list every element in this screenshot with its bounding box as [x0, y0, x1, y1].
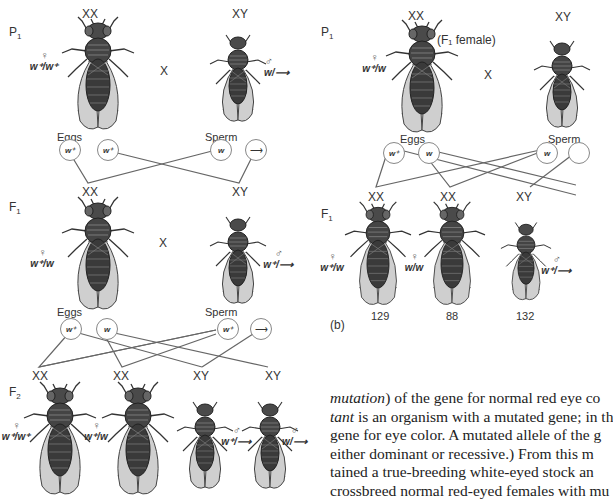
text-line: either dominant or recessive.) From this…: [330, 445, 613, 464]
text-rest: gene for eye color. A mutated allele of …: [330, 426, 601, 443]
genotype-text: w⁺/w: [320, 262, 343, 273]
genotype-b-f1-1: ♀w⁺/w: [312, 251, 352, 273]
generation-letter: P: [321, 25, 329, 39]
genotype-f2-2: ♀w⁺/w: [78, 420, 114, 442]
text-rest: ) of the gene for normal red eye co: [385, 389, 600, 406]
genotype-text: w⁺/w⁺: [30, 61, 58, 72]
male-symbol-icon: ♂: [282, 425, 306, 436]
genotype-text: w/⟶: [282, 436, 307, 447]
offspring-chromosomes: XY: [193, 369, 209, 383]
offspring-chromosomes: XY: [516, 190, 532, 204]
genotype-text: w/w: [405, 262, 423, 273]
sperm-allele-partial: [568, 142, 590, 164]
fly-male-icon: [208, 30, 268, 126]
fly-male-icon: [532, 36, 592, 132]
egg-allele: w: [96, 318, 118, 340]
offspring-chromosomes: XY: [265, 369, 281, 383]
egg-allele: w⁺: [60, 318, 82, 340]
eggs-label: Eggs: [400, 133, 425, 145]
genotype-text: w/⟶: [264, 67, 289, 78]
text-line: gene for eye color. A mutated allele of …: [330, 426, 613, 445]
text-line: crossbreed normal red-eyed females with …: [330, 482, 613, 500]
text-italic: tant: [330, 408, 354, 425]
generation-label-f1: F1: [9, 200, 21, 216]
sperm-allele: ⟶: [250, 318, 272, 340]
generation-sub: 1: [328, 214, 332, 223]
generation-sub: 1: [16, 207, 20, 216]
sperm-label: Sperm: [205, 306, 237, 318]
genotype-text: w⁺/w: [30, 258, 53, 269]
offspring-count: 129: [371, 310, 389, 322]
generation-sub: 1: [17, 32, 21, 41]
female-symbol-icon: ♀: [78, 420, 114, 431]
genotype-p1-male: ♂w/⟶: [264, 56, 294, 78]
chromosome-label-male: XY: [232, 7, 248, 21]
generation-letter: P: [9, 25, 17, 39]
offspring-count: 132: [516, 310, 534, 322]
text-italic: mutation: [330, 389, 385, 406]
genotype-text: w⁺/w⁺: [2, 431, 30, 442]
generation-label-b-p1: P1: [321, 25, 333, 41]
text-rest: either dominant or recessive.) From this…: [330, 445, 594, 462]
fly-female-icon: [58, 195, 138, 315]
genotype-text: w⁺/⟶: [541, 265, 571, 276]
fly-female-icon: [382, 18, 462, 138]
cross-symbol: X: [484, 68, 492, 82]
text-line: mutation) of the gene for normal red eye…: [330, 389, 613, 408]
sperm-allele: w: [536, 142, 558, 164]
generation-sub: 1: [329, 32, 333, 41]
female-symbol-icon: ♀: [0, 420, 34, 431]
genotype-f1-female: ♀w⁺/w: [22, 247, 62, 269]
offspring-chromosomes: XY: [232, 185, 248, 199]
fly-female-icon: [58, 15, 138, 135]
egg-allele: w⁺: [59, 139, 81, 161]
cross-symbol: X: [159, 236, 167, 250]
body-paragraph: mutation) of the gene for normal red eye…: [330, 389, 613, 500]
sperm-allele: ⟶: [245, 139, 267, 161]
chromosome-label-male: XY: [555, 10, 571, 24]
sperm-allele: w: [210, 139, 232, 161]
genotype-f2-1: ♀w⁺/w⁺: [0, 420, 34, 442]
male-symbol-icon: ♂: [538, 254, 574, 265]
offspring-count: 88: [446, 310, 458, 322]
sperm-allele: w⁺: [217, 318, 239, 340]
genotype-f1-male: ♂w⁺/⟶: [258, 248, 298, 270]
egg-allele: w⁺: [97, 139, 119, 161]
text-rest: tained a true-breeding white-eyed stock …: [330, 463, 594, 480]
text-line: tained a true-breeding white-eyed stock …: [330, 463, 613, 482]
eggs-label: Eggs: [57, 306, 82, 318]
text-rest: crossbreed normal red-eyed females with …: [330, 482, 609, 499]
text-rest: is an organism with a mutated gene; in t…: [354, 408, 613, 425]
cross-symbol: X: [160, 64, 168, 78]
genotype-text: w⁺/w: [84, 431, 107, 442]
female-symbol-icon: ♀: [312, 251, 352, 262]
genotype-text: w⁺/⟶: [263, 259, 293, 270]
panel-label-b: (b): [330, 318, 345, 332]
male-symbol-icon: ♂: [258, 248, 298, 259]
genotype-f2-4: ♂w/⟶: [282, 425, 306, 447]
female-symbol-icon: ♀: [22, 247, 62, 258]
female-symbol-icon: ♀: [402, 251, 426, 262]
text-line: tant is an organism with a mutated gene;…: [330, 408, 613, 427]
egg-allele: w: [418, 142, 440, 164]
male-symbol-icon: ♂: [264, 56, 294, 67]
genotype-b-f1-3: ♂w⁺/⟶: [538, 254, 574, 276]
generation-label-p1: P1: [9, 25, 21, 41]
generation-label-b-f1: F1: [321, 207, 333, 223]
genotype-b-f1-2: ♀w/w: [402, 251, 426, 273]
egg-allele: w⁺: [383, 142, 405, 164]
